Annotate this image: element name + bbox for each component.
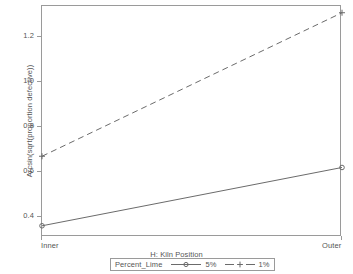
y-tick-label: 1.2 (23, 32, 34, 40)
series-line-1pct (42, 13, 342, 157)
legend-sample-solid-circle-icon (171, 260, 201, 269)
legend[interactable]: Percent_Lime 5% 1% (110, 258, 275, 271)
x-tick-mark (341, 236, 342, 240)
plot-frame (41, 5, 341, 236)
y-tick-label: 0.4 (23, 212, 34, 220)
legend-entry-1pct[interactable]: 1% (225, 260, 270, 269)
legend-title: Percent_Lime (115, 260, 162, 269)
legend-label-5pct: 5% (205, 260, 216, 269)
series-layer (42, 6, 342, 237)
series-5pct (40, 165, 345, 228)
series-line-5pct (42, 167, 342, 225)
y-axis-ticks: 0.40.60.81.01.2 (0, 0, 41, 274)
x-tick-label: Inner (41, 241, 59, 250)
y-tick-label: 0.8 (23, 122, 34, 130)
y-tick-label: 1.0 (23, 77, 34, 85)
legend-label-1pct: 1% (259, 260, 270, 269)
legend-sample-dashed-plus-icon (225, 260, 255, 269)
plot-area (42, 6, 340, 235)
series-1pct (39, 10, 345, 160)
interaction-plot: Arcsin(sqrt(proportion defective)) 0.40.… (0, 0, 353, 274)
x-tick-mark (41, 236, 42, 240)
x-tick-label: Outer (322, 241, 341, 250)
legend-entry-5pct[interactable]: 5% (171, 260, 216, 269)
y-tick-label: 0.6 (23, 167, 34, 175)
